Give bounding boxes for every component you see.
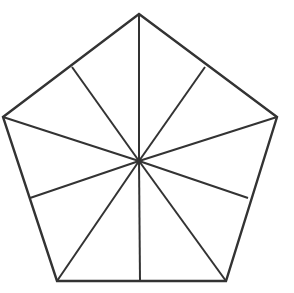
spoke-to-midpoint-bottom: [139, 161, 140, 281]
pentagon-diagram: [0, 0, 294, 293]
pentagon-figure-container: [0, 0, 294, 293]
